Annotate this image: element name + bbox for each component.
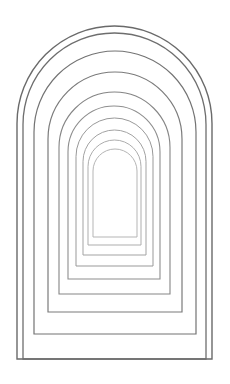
arch-outline-10 [93,149,137,237]
arch-outline-9 [88,140,141,245]
arch-outline-3 [34,51,196,334]
arch-outline-1 [17,26,212,359]
nested-arches-illustration [0,0,230,384]
arches-graphic [0,0,230,384]
